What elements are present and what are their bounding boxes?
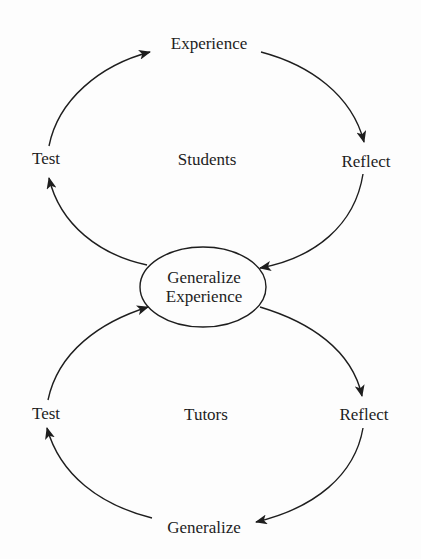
arrow-center-to-reflect: [260, 307, 362, 396]
arrow-test-to-center: [48, 307, 148, 400]
arrow-reflect-to-center: [260, 174, 363, 268]
arrow-experience-to-reflect: [261, 52, 364, 142]
arrow-center-to-test-top: [49, 178, 147, 265]
node-generalize-experience: Generalize Experience: [166, 268, 242, 306]
node-reflect-top: Reflect: [341, 153, 390, 170]
node-reflect-bottom: Reflect: [339, 406, 388, 423]
arrow-generalize-to-test: [47, 428, 152, 518]
learning-cycle-diagram: Experience Test Students Reflect General…: [0, 0, 421, 559]
group-label-students: Students: [178, 151, 237, 168]
group-label-tutors: Tutors: [184, 406, 228, 423]
node-test-top: Test: [32, 150, 60, 167]
arrow-reflect-to-generalize: [256, 428, 363, 522]
node-test-bottom: Test: [32, 405, 60, 422]
node-generalize-bottom: Generalize: [167, 519, 241, 536]
center-label-line1: Generalize: [166, 268, 242, 287]
center-label-line2: Experience: [166, 287, 242, 306]
node-experience-top: Experience: [171, 35, 247, 52]
arrow-test-to-experience: [49, 52, 150, 146]
